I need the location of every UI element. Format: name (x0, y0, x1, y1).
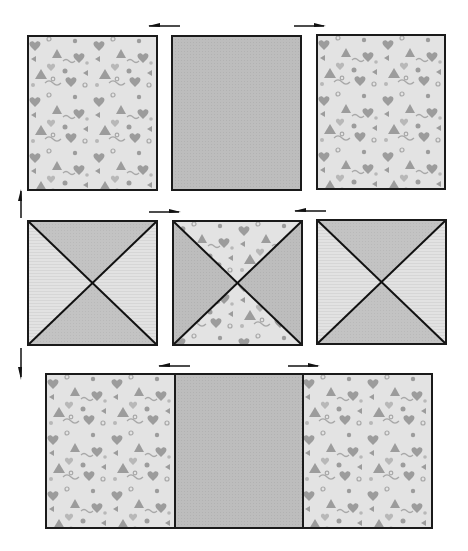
press-arrow-left-icon (156, 361, 192, 371)
solid-rectangle-center (171, 35, 302, 191)
hourglass-block-right (316, 219, 447, 346)
hourglass-block-center (172, 220, 303, 346)
hourglass-block-left (27, 220, 158, 346)
row-press-arrow-down-icon (16, 347, 26, 381)
press-arrow-left-icon (146, 21, 182, 31)
row-press-arrow-up-icon (16, 188, 26, 220)
press-arrow-right-icon (292, 21, 328, 31)
press-arrow-right-icon (286, 361, 322, 371)
print-rectangle-right (316, 34, 446, 190)
press-arrow-left-icon (292, 206, 328, 216)
press-arrow-right-icon (147, 207, 183, 217)
print-rectangle-left (27, 35, 158, 191)
bottom-row-strip (45, 373, 433, 530)
